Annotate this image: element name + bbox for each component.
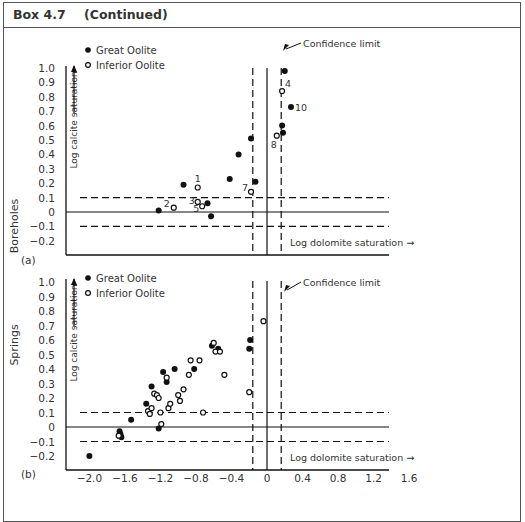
- row-label: Springs: [8, 324, 21, 365]
- data-point-inferior-oolite: [201, 410, 206, 415]
- y-tick-label: 0.6: [38, 120, 55, 132]
- y-tick-label: 0.6: [38, 334, 55, 346]
- data-point-great-oolite: [208, 213, 214, 219]
- data-point-great-oolite: [86, 453, 92, 459]
- data-point-great-oolite: [282, 68, 288, 74]
- point-label: 5: [193, 203, 199, 214]
- legend-label: Inferior Oolite: [96, 288, 165, 299]
- x-tick-label: 1.2: [365, 472, 382, 484]
- y-tick-label: −0.2: [30, 450, 56, 462]
- y-tick-label: 0.8: [38, 305, 55, 317]
- x-tick-label: 0.4: [294, 472, 311, 484]
- data-point-great-oolite: [252, 179, 258, 185]
- data-point-great-oolite: [143, 401, 149, 407]
- panel-label: (b): [21, 468, 36, 480]
- x-axis-label: Log dolomite saturation →: [290, 237, 414, 248]
- y-tick-label: −0.2: [30, 235, 56, 247]
- panel-label: (a): [21, 254, 36, 266]
- data-point-inferior-oolite: [200, 204, 205, 209]
- data-point-great-oolite: [156, 208, 162, 214]
- data-point-inferior-oolite: [156, 396, 161, 401]
- data-point-great-oolite: [160, 369, 166, 375]
- data-point-inferior-oolite: [195, 185, 200, 190]
- y-tick-label: 1.0: [38, 62, 55, 74]
- y-tick-label: 0.1: [38, 192, 55, 204]
- data-point-great-oolite: [236, 151, 242, 157]
- data-point-inferior-oolite: [217, 349, 222, 354]
- legend-label: Inferior Oolite: [96, 60, 165, 71]
- y-tick-label: 0.4: [38, 363, 55, 375]
- arrow-up-icon: [71, 65, 77, 72]
- data-point-inferior-oolite: [261, 319, 266, 324]
- data-point-inferior-oolite: [249, 189, 254, 194]
- point-label: 8: [271, 139, 277, 150]
- filled-circle-icon: [85, 47, 91, 53]
- data-point-inferior-oolite: [181, 387, 186, 392]
- y-tick-label: −0.1: [30, 436, 56, 448]
- y-tick-label: 0.5: [38, 134, 55, 146]
- data-point-inferior-oolite: [171, 205, 176, 210]
- data-point-great-oolite: [280, 130, 286, 136]
- data-point-great-oolite: [247, 337, 253, 343]
- legend-label: Great Oolite: [96, 273, 157, 284]
- panel-a-boreholes: 1.00.90.80.70.60.50.40.30.20.10−0.1−0.2B…: [8, 38, 414, 266]
- data-point-inferior-oolite: [197, 358, 202, 363]
- data-point-great-oolite: [191, 366, 197, 372]
- data-point-inferior-oolite: [168, 401, 173, 406]
- data-point-great-oolite: [279, 123, 285, 129]
- y-tick-label: 0.1: [38, 407, 55, 419]
- y-tick-label: 0.3: [38, 163, 55, 175]
- data-point-inferior-oolite: [186, 372, 191, 377]
- row-label: Boreholes: [8, 198, 21, 253]
- data-point-great-oolite: [288, 104, 294, 110]
- data-point-great-oolite: [181, 182, 187, 188]
- y-tick-label: 0.7: [38, 320, 55, 332]
- x-tick-label: −1.6: [112, 472, 138, 484]
- y-tick-label: 0.9: [38, 291, 55, 303]
- point-label: 7: [242, 182, 248, 193]
- data-point-great-oolite: [149, 383, 155, 389]
- y-tick-label: 0: [48, 206, 55, 218]
- x-tick-label: −2.0: [77, 472, 103, 484]
- data-point-great-oolite: [248, 136, 254, 142]
- x-tick-label: 1.6: [401, 472, 418, 484]
- data-point-inferior-oolite: [274, 133, 279, 138]
- point-label: 2: [164, 198, 170, 209]
- y-tick-label: 0.3: [38, 378, 55, 390]
- x-tick-label: −0.4: [219, 472, 245, 484]
- x-tick-label: −0.8: [183, 472, 209, 484]
- data-point-inferior-oolite: [149, 406, 154, 411]
- legend-label: Great Oolite: [96, 45, 157, 56]
- data-point-inferior-oolite: [159, 422, 164, 427]
- y-tick-label: −0.1: [30, 220, 56, 232]
- arrow-icon: [283, 44, 289, 51]
- point-label: 10: [295, 102, 307, 113]
- y-tick-label: 0.7: [38, 105, 55, 117]
- confidence-limit-label: Confidence limit: [303, 38, 381, 49]
- y-tick-label: 0.9: [38, 76, 55, 88]
- data-point-great-oolite: [246, 346, 252, 352]
- annotation-leader: [286, 43, 301, 49]
- filled-circle-icon: [85, 275, 91, 281]
- panel-b-springs: 1.00.90.80.70.60.50.40.30.20.10−0.1−0.2S…: [8, 273, 418, 484]
- y-tick-label: 0.2: [38, 392, 55, 404]
- data-point-inferior-oolite: [147, 411, 152, 416]
- point-label: 1: [195, 173, 201, 184]
- data-point-inferior-oolite: [158, 410, 163, 415]
- arrow-up-icon: [71, 278, 77, 285]
- y-tick-label: 0.2: [38, 177, 55, 189]
- y-tick-label: 0.5: [38, 349, 55, 361]
- x-tick-label: 0: [264, 472, 271, 484]
- y-tick-label: 0.8: [38, 91, 55, 103]
- data-point-great-oolite: [205, 200, 211, 206]
- data-point-inferior-oolite: [280, 89, 285, 94]
- data-point-inferior-oolite: [116, 433, 121, 438]
- data-point-inferior-oolite: [247, 390, 252, 395]
- x-tick-label: 0.8: [330, 472, 347, 484]
- point-label: 4: [285, 78, 291, 89]
- data-point-inferior-oolite: [176, 393, 181, 398]
- data-point-inferior-oolite: [222, 372, 227, 377]
- data-point-inferior-oolite: [211, 340, 216, 345]
- data-point-great-oolite: [227, 176, 233, 182]
